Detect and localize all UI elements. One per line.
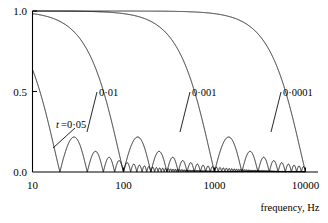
curve-label-0.001: 0·001 (192, 87, 217, 98)
sinc-response-chart: 1.0 0.5 0.0 10 100 1000 10000 frequency,… (0, 0, 328, 223)
y-tick-label-1: 1.0 (13, 5, 27, 17)
curve-label-0.05-value: =0·05 (61, 119, 86, 130)
y-tick-label-0: 0.0 (13, 166, 27, 178)
x-tick-label-10000: 10000 (292, 179, 320, 191)
x-tick-label-100: 100 (115, 179, 132, 191)
chart-background (0, 0, 328, 223)
curve-label-0.0001: 0·0001 (283, 87, 313, 98)
curve-label-0.01: 0·01 (99, 87, 118, 98)
x-tick-label-10: 10 (27, 179, 39, 191)
y-tick-label-0.5: 0.5 (13, 86, 27, 98)
x-tick-label-1000: 1000 (204, 179, 227, 191)
x-axis-title: frequency, Hz (261, 202, 320, 213)
curve-label-0.05: t =0·05 (56, 119, 86, 130)
figure-container: 1.0 0.5 0.0 10 100 1000 10000 frequency,… (0, 0, 328, 223)
